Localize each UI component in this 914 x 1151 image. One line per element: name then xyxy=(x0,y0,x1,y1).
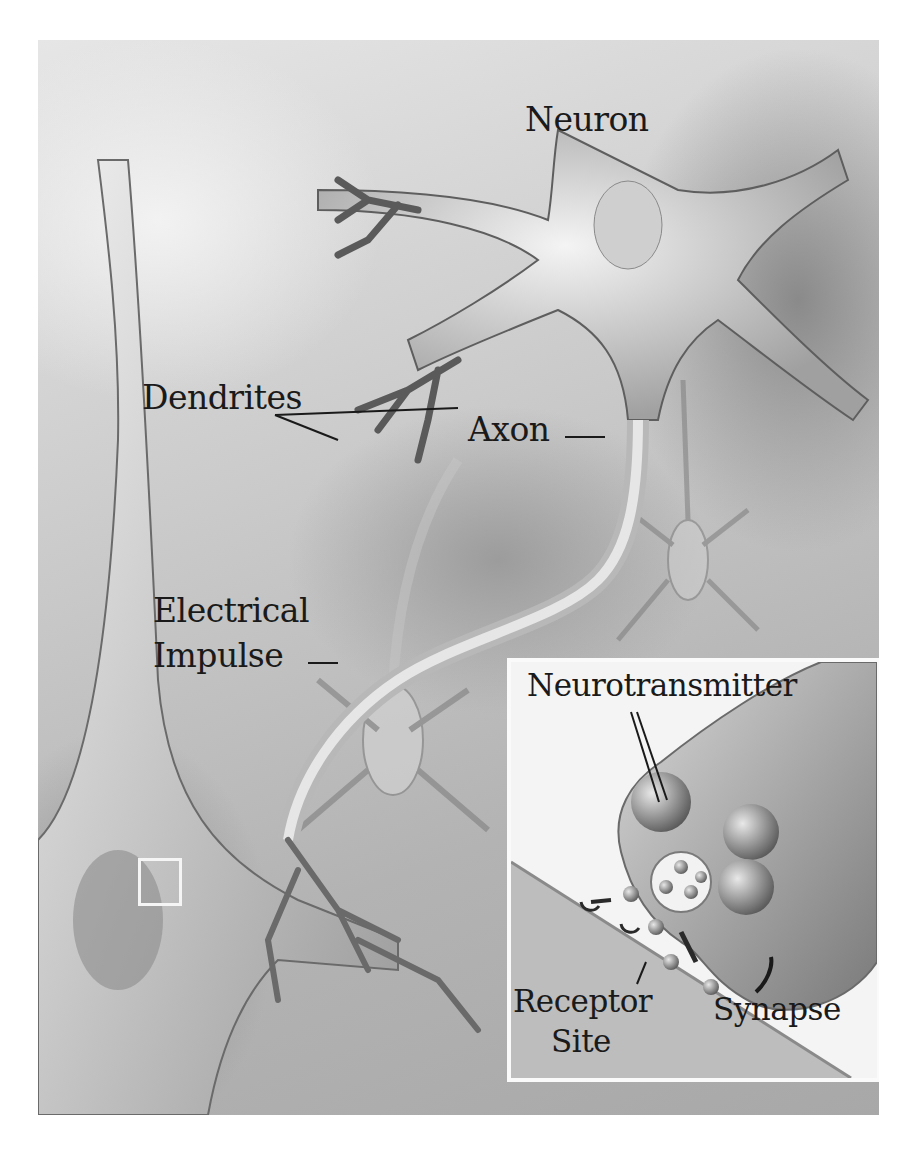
label-neurotransmitter: Neurotransmitter xyxy=(527,668,797,702)
label-electrical-impulse-line2: Impulse xyxy=(153,638,283,674)
label-dendrites: Dendrites xyxy=(142,380,302,416)
label-receptor-site-line2: Site xyxy=(551,1024,611,1058)
label-synapse: Synapse xyxy=(713,992,841,1026)
label-neuron: Neuron xyxy=(525,102,649,138)
label-electrical-impulse-line1: Electrical xyxy=(153,593,309,629)
magnification-marker xyxy=(138,858,182,906)
label-receptor-site-line1: Receptor xyxy=(513,984,652,1018)
neuron-illustration: Neuron Dendrites Axon Electrical Impulse xyxy=(38,40,879,1115)
label-axon: Axon xyxy=(468,412,550,448)
synapse-inset: Neurotransmitter Receptor Site Synapse xyxy=(507,658,879,1082)
